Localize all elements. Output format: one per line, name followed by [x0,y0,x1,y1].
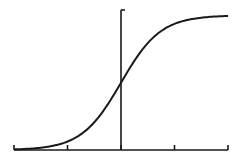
axes [14,10,228,150]
sigmoid-chart [0,0,239,168]
